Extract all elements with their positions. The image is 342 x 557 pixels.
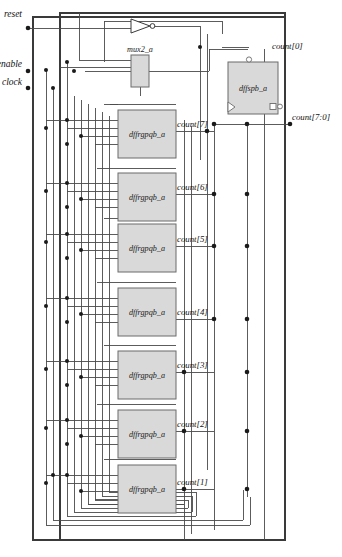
reset-port-label: reset <box>4 9 22 19</box>
count3-net-label: count[3] <box>177 360 208 370</box>
count0-port-label: count[0] <box>272 41 303 51</box>
count7-net-label: count[7] <box>177 119 208 129</box>
count2-net-label: count[2] <box>177 419 208 429</box>
port-dot-clock <box>26 86 31 91</box>
inversion-bubble <box>150 24 155 29</box>
dffrgpqb_a-label-5: dffrgpqb_a <box>129 244 165 253</box>
left-bus-lines <box>46 62 109 525</box>
mux2_a-block[interactable] <box>131 55 149 87</box>
inversion-bubble <box>246 57 251 62</box>
clock-port-label: clock <box>2 77 23 87</box>
dffrgpqb_a-label-2: dffrgpqb_a <box>129 430 165 439</box>
countbus-port-label: count[7:0] <box>292 112 331 122</box>
enable-port-label: enable <box>0 59 22 69</box>
dffrgpqb_a-label-1: dffrgpqb_a <box>129 485 165 494</box>
count4-net-label: count[4] <box>177 307 208 317</box>
port-dot-reset <box>26 26 31 31</box>
port-dot-countbus <box>288 122 293 127</box>
circuit-diagram: reset enable clock count[0] count[7:0] m… <box>0 0 342 557</box>
output-pin <box>270 104 276 110</box>
count1-net-label: count[1] <box>177 477 208 487</box>
mux2_a-label: mux2_a <box>127 45 153 54</box>
dffspb_a-label: dffspb_a <box>239 84 267 93</box>
inversion-bubble <box>278 104 283 109</box>
port-dot-enable <box>26 69 31 74</box>
dffrgpqb_a-label-7: dffrgpqb_a <box>129 130 165 139</box>
count5-net-label: count[5] <box>177 234 208 244</box>
count6-net-label: count[6] <box>177 182 208 192</box>
dffrgpqb_a-label-6: dffrgpqb_a <box>129 193 165 202</box>
dffrgpqb_a-label-4: dffrgpqb_a <box>129 308 165 317</box>
dffrgpqb_a-label-3: dffrgpqb_a <box>129 371 165 380</box>
schematic-canvas: reset enable clock count[0] count[7:0] m… <box>0 0 342 557</box>
